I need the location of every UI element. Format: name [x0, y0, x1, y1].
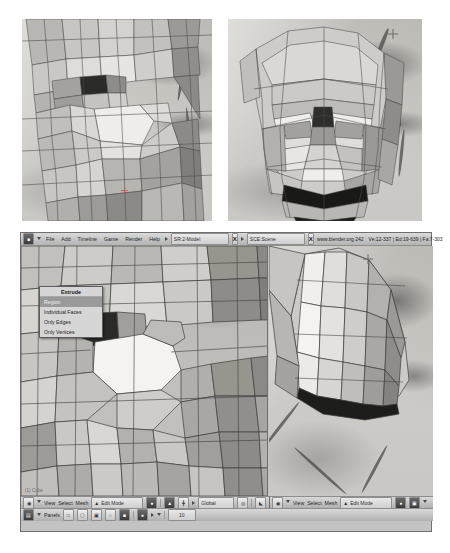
- viewport-left-menu-select[interactable]: Select: [58, 500, 72, 506]
- extrude-menu-item-only-vertices[interactable]: Only Vertices: [40, 327, 102, 337]
- version-label: www.blender.org 242: [317, 236, 366, 242]
- screen-selector[interactable]: SR:2-Model: [171, 233, 229, 245]
- collapse-icon[interactable]: [37, 237, 41, 242]
- vertex-select-icon[interactable]: ▲: [164, 497, 175, 509]
- axis-gizmo-icon: [386, 27, 400, 42]
- figure-top-left-viewport: [22, 19, 212, 221]
- panels-label[interactable]: Panels: [44, 512, 60, 518]
- object-panel-icon[interactable]: ■: [119, 509, 130, 521]
- mode-icon: ▲: [343, 500, 348, 506]
- buttons-window-icon[interactable]: ▤: [23, 509, 34, 521]
- screen-prev-icon[interactable]: [165, 237, 168, 241]
- panel-context-selector[interactable]: 10: [168, 509, 196, 521]
- scene-selector-value: SCE:Scene: [250, 236, 276, 242]
- main-header-bar: ■ File Add Timeline Game Render Help SR:…: [21, 233, 431, 246]
- viewport-right-menu-view[interactable]: View: [293, 500, 304, 506]
- viewport-right-mode-selector[interactable]: ▲ Edit Mode: [340, 497, 392, 509]
- edge-select-icon[interactable]: ╋: [178, 497, 189, 509]
- extrude-menu-item-individual-faces[interactable]: Individual Faces: [40, 307, 102, 317]
- view-panel-icon[interactable]: □: [63, 509, 74, 521]
- snap-magnet-icon[interactable]: ◣: [255, 497, 266, 509]
- viewport-left-menu-view[interactable]: View: [44, 500, 55, 506]
- mode-icon: ▲: [94, 500, 99, 506]
- viewport-right-menu-select[interactable]: Select: [307, 500, 321, 506]
- collapse-icon[interactable]: [286, 500, 290, 505]
- shading-solid-icon[interactable]: ●: [395, 497, 406, 509]
- collapse-icon[interactable]: [37, 513, 41, 518]
- pivot-icon[interactable]: ◎: [237, 497, 248, 509]
- screen-selector-value: SR:2-Model: [174, 236, 200, 242]
- head-mesh-side-view: [269, 246, 433, 496]
- context-prev-icon[interactable]: [151, 513, 154, 517]
- menu-game[interactable]: Game: [102, 234, 120, 244]
- world-panel-icon[interactable]: ●: [137, 509, 148, 521]
- 3d-view-icon[interactable]: ◉: [272, 497, 283, 509]
- menu-render[interactable]: Render: [123, 234, 144, 244]
- 3d-view-icon[interactable]: ◉: [23, 497, 34, 509]
- viewport-right-menu-mesh[interactable]: Mesh: [325, 500, 338, 506]
- scene-selector[interactable]: SCE:Scene: [247, 233, 305, 245]
- render-panel-icon[interactable]: ▢: [77, 509, 88, 521]
- window-type-icon[interactable]: ■: [23, 233, 34, 245]
- figure-top-right-viewport: [228, 19, 422, 221]
- face-mesh-wireframe-closeup: [21, 246, 268, 496]
- editing-panel-icon[interactable]: ▣: [91, 509, 102, 521]
- extrude-menu-item-only-edges[interactable]: Only Edges: [40, 317, 102, 327]
- viewport-left-menu-mesh[interactable]: Mesh: [76, 500, 89, 506]
- menu-add[interactable]: Add: [59, 234, 72, 244]
- menu-timeline[interactable]: Timeline: [76, 234, 99, 244]
- scene-panel-icon[interactable]: ○: [105, 509, 116, 521]
- scene-delete-button[interactable]: X: [308, 233, 314, 245]
- more-options-icon[interactable]: [423, 500, 427, 505]
- viewport-left-mode-value: Edit Mode: [101, 500, 124, 506]
- collapse-icon[interactable]: [37, 500, 41, 505]
- extrude-menu-item-region[interactable]: Region: [40, 297, 102, 307]
- screen-delete-button[interactable]: X: [232, 233, 238, 245]
- viewport-right-mode-value: Edit Mode: [350, 500, 373, 506]
- buttons-window-bar: ▤ Panels □ ▢ ▣ ○ ■ ● 10: [21, 508, 433, 521]
- scene-statistics: Ve:12-337 | Ed:19-639 | Fa:7-303: [369, 236, 445, 242]
- axis-gizmo-icon: [361, 252, 375, 267]
- transform-orientation-value: Global: [201, 500, 215, 506]
- viewport-right-footer-bar: ◉ View Select Mesh ▲ Edit Mode ● ▣: [269, 496, 433, 508]
- transform-orientation-selector[interactable]: Global: [198, 497, 234, 509]
- extrude-popup-menu[interactable]: Extrude Region Individual Faces Only Edg…: [39, 286, 103, 338]
- menu-help[interactable]: Help: [147, 234, 162, 244]
- blender-application-window: ■ File Add Timeline Game Render Help SR:…: [20, 232, 432, 532]
- viewport-left-overlay-label: (1) Cube: [25, 488, 43, 493]
- context-next-icon[interactable]: [157, 513, 161, 518]
- menu-file[interactable]: File: [44, 234, 56, 244]
- shading-solid-icon[interactable]: ●: [146, 497, 157, 509]
- viewport-left-mode-selector[interactable]: ▲ Edit Mode: [91, 497, 143, 509]
- scene-prev-icon[interactable]: [241, 237, 244, 241]
- viewport-right[interactable]: [269, 246, 433, 496]
- viewport-left[interactable]: Extrude Region Individual Faces Only Edg…: [21, 246, 268, 496]
- extrude-menu-title: Extrude: [40, 287, 102, 297]
- viewport-left-footer-bar: ◉ View Select Mesh ▲ Edit Mode ● ▲ ╋ Glo…: [21, 496, 269, 508]
- layers-icon[interactable]: ▣: [409, 497, 420, 509]
- face-mesh-wireframe: [22, 19, 212, 221]
- 3d-cursor: [121, 187, 128, 194]
- panel-context-value: 10: [179, 512, 185, 518]
- orientation-prev-icon[interactable]: [192, 501, 195, 505]
- face-mesh-wireframe: [228, 19, 422, 221]
